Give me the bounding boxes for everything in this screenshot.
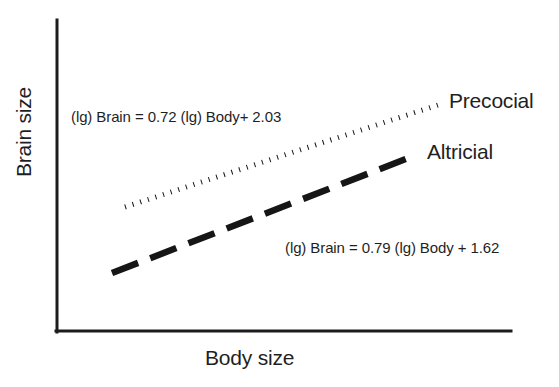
series-label-precocial: Precocial [449,89,534,113]
equation-altricial: (lg) Brain = 0.79 (lg) Body + 1.62 [285,239,499,256]
chart-canvas [0,0,559,387]
equation-precocial: (lg) Brain = 0.72 (lg) Body+ 2.03 [71,108,281,125]
series-label-altricial: Altricial [427,140,493,164]
chart-figure: Brain size Body size (lg) Brain = 0.72 (… [0,0,559,387]
x-axis-label: Body size [205,346,294,370]
y-axis-label: Brain size [12,72,36,192]
